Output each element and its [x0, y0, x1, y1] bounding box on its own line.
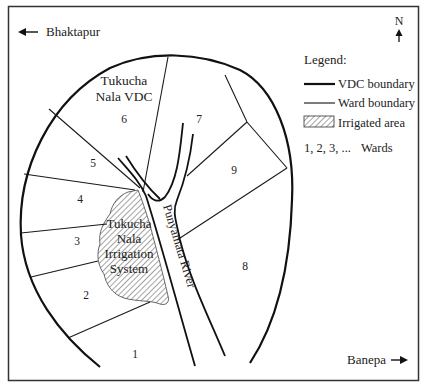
ward-label-6: 6	[121, 113, 127, 125]
ward-label-1: 1	[132, 348, 138, 360]
svg-text:N: N	[395, 14, 404, 28]
vdc-name-line2: Nala VDC	[95, 89, 152, 104]
legend-irrigated-symbol	[304, 116, 334, 127]
svg-text:System: System	[110, 261, 148, 276]
svg-text:Bhaktapur: Bhaktapur	[46, 24, 101, 39]
ward-label-7: 7	[196, 113, 202, 125]
legend-irrigated-label: Irrigated area	[338, 116, 405, 130]
vdc-map: Punyamata River Tukucha Nala Irrigation …	[0, 0, 425, 388]
svg-text:Tukucha: Tukucha	[106, 216, 151, 231]
ward-label-8: 8	[242, 260, 248, 272]
ward-label-3: 3	[74, 235, 80, 247]
legend-wards-label: Wards	[361, 141, 393, 155]
ward-label-5: 5	[90, 157, 96, 169]
ward-label-9: 9	[231, 164, 237, 176]
legend-ward-label: Ward boundary	[338, 96, 416, 110]
vdc-name-line1: Tukucha	[101, 73, 148, 88]
svg-text:Nala: Nala	[117, 231, 142, 246]
irrigation-label: Tukucha Nala Irrigation System	[104, 216, 154, 276]
svg-text:Irrigation: Irrigation	[104, 246, 154, 261]
svg-text:Banepa: Banepa	[347, 352, 386, 367]
legend-wards-symbol: 1, 2, 3, ...	[304, 141, 351, 155]
legend-vdc-label: VDC boundary	[338, 77, 415, 91]
ward-label-2: 2	[83, 289, 89, 301]
legend-title: Legend:	[304, 52, 347, 67]
ward-label-4: 4	[77, 193, 83, 205]
map-frame	[9, 7, 419, 381]
